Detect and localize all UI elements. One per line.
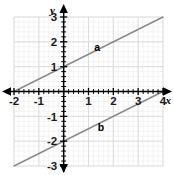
y-tick-label: -1 (47, 111, 58, 123)
y-axis-label: y (48, 4, 55, 16)
x-tick-label: -1 (34, 95, 45, 107)
x-tick-label: 3 (135, 95, 141, 107)
series-label-b: b (98, 121, 104, 133)
y-axis-arrow-up (59, 4, 67, 13)
coordinate-plane-figure: -2-11234-3-2-1123 x y ab (0, 0, 174, 175)
x-axis-label: x (165, 94, 172, 106)
graph-canvas: -2-11234-3-2-1123 x y ab (0, 0, 174, 175)
y-tick-label: 2 (51, 36, 57, 48)
y-tick-label: -3 (47, 160, 57, 172)
y-tick-label: -2 (47, 135, 57, 147)
x-tick-label: 2 (110, 95, 116, 107)
series-label-a: a (94, 41, 100, 53)
y-tick-label: 1 (51, 61, 58, 73)
x-tick-label: 1 (85, 95, 92, 107)
x-tick-label: -2 (9, 95, 19, 107)
